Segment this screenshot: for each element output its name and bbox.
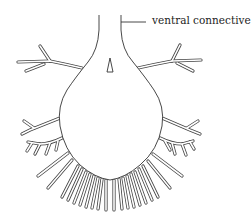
lower-left-branched-nerve: [27, 138, 62, 154]
mid-right-nerve: [162, 118, 200, 134]
lower-right-branched-nerve: [160, 138, 194, 155]
upper-left-nerve: [18, 46, 82, 71]
upper-right-nerve: [138, 45, 201, 71]
ventral-connective-label: ventral connective: [152, 14, 251, 26]
ganglion-body: [59, 15, 162, 180]
ganglion-diagram: ventral connective: [0, 0, 251, 223]
mid-left-nerve: [22, 118, 60, 134]
